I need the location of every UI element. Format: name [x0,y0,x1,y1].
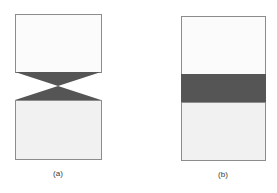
panel-a [15,15,102,160]
figure-canvas [0,0,277,193]
panel-a-caption: (a) [43,169,73,179]
panel-a-hourglass-junction [15,72,101,100]
panel-b-lower-box [182,103,266,161]
panel-a-upper-box [16,15,102,73]
panel-b [181,17,266,161]
panel-a-lower-box [16,101,102,160]
panel-b-caption: (b) [208,170,238,180]
panel-b-band-junction [181,74,266,102]
panel-b-upper-box [182,17,266,75]
